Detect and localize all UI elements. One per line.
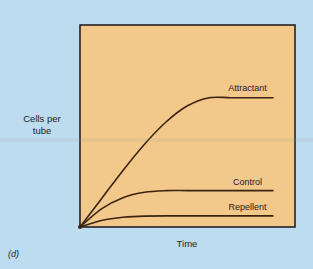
chart: AttractantControlRepellent Cells per tub…: [0, 0, 313, 269]
y-axis-label-line-1: Cells per: [23, 113, 61, 124]
series-label-control: Control: [233, 177, 262, 187]
paper-crease: [0, 138, 313, 142]
panel-label: (d): [8, 249, 19, 259]
plot-area: [80, 25, 295, 227]
y-axis-label-line-2: tube: [33, 125, 52, 136]
origin-point: [78, 225, 82, 229]
series-label-repellent: Repellent: [228, 202, 267, 212]
series-label-attractant: Attractant: [228, 83, 267, 93]
x-axis-label: Time: [177, 238, 198, 249]
